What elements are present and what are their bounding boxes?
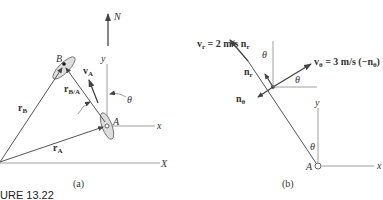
panel-a: X N y x B A rB rA rB/A	[0, 11, 168, 190]
axis-x-label-b: x	[376, 160, 382, 171]
vector-nr	[265, 74, 273, 87]
panel-a-caption: (a)	[73, 178, 84, 190]
axis-X-label: X	[160, 158, 168, 169]
vector-vA-label: vA	[83, 65, 93, 78]
angle-theta-arc-right	[110, 93, 126, 97]
rod-line	[248, 61, 318, 166]
point-A-circle	[105, 124, 109, 128]
axis-N-label: N	[113, 11, 122, 22]
axis-y-label-b: y	[314, 97, 320, 108]
vector-nr-label: nr	[244, 66, 253, 79]
vector-vtheta-label: vθ = 3 m/s (−nθ)	[314, 56, 380, 69]
figure-diagram: X N y x B A rB rA rB/A	[0, 0, 383, 200]
angle-bottom-label: θ	[310, 141, 315, 152]
vector-rA-label: rA	[53, 142, 63, 155]
angle-theta-label: θ	[127, 94, 132, 105]
vector-vr-label: vr = 2 m/s nr	[197, 38, 249, 51]
point-B-label: B	[56, 53, 62, 64]
vector-vtheta-arrow	[273, 64, 311, 87]
axis-y-label: y	[100, 53, 106, 64]
angle-top-label: θ	[262, 49, 267, 60]
point-A-pin	[315, 163, 321, 169]
angle-mid-label: θ	[295, 74, 300, 85]
axis-x-label: x	[156, 120, 162, 131]
vector-vA	[89, 80, 98, 103]
angle-arc-rBA	[78, 102, 90, 114]
point-B-dot	[62, 62, 66, 66]
figure-caption: URE 13.22	[0, 189, 54, 200]
panel-b-caption: (b)	[282, 178, 294, 190]
body-B-ellipse	[50, 54, 78, 82]
vector-rA	[0, 127, 103, 162]
panel-b: nr nθ vθ = 3 m/s (−nθ) vr = 2 m/s nr θ θ…	[197, 38, 382, 190]
vector-ntheta-label: nθ	[236, 93, 246, 106]
vector-rB-label: rB	[18, 102, 27, 115]
point-A-label-b: A	[305, 161, 313, 172]
point-A-label: A	[112, 116, 120, 127]
